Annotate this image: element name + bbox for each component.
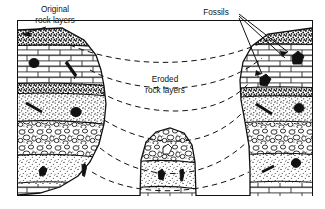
fossil-shell-icon xyxy=(29,58,39,67)
geology-cross-section: Original rock layers Eroded rock layers … xyxy=(0,0,325,209)
stratum-sandstone xyxy=(10,94,120,122)
original-rock-layers-label-line2: rock layers xyxy=(35,16,75,25)
eroded-rock-layers-label-line1: Eroded xyxy=(152,75,179,84)
eroded-rock-layers-label-line2: rock layers xyxy=(145,86,185,95)
figure-canvas: Original rock layers Eroded rock layers … xyxy=(0,0,325,209)
fossil-ammonite-icon xyxy=(71,107,81,116)
stratum-fine-stipple-mid xyxy=(132,162,204,188)
stratum-basal-brick-mid xyxy=(132,188,204,200)
fossil-ammonite-icon xyxy=(294,104,304,113)
fossil-coral-icon xyxy=(291,159,300,168)
original-rock-layers-label-line1: Original xyxy=(41,5,69,14)
fossils-label: Fossils xyxy=(203,8,228,17)
